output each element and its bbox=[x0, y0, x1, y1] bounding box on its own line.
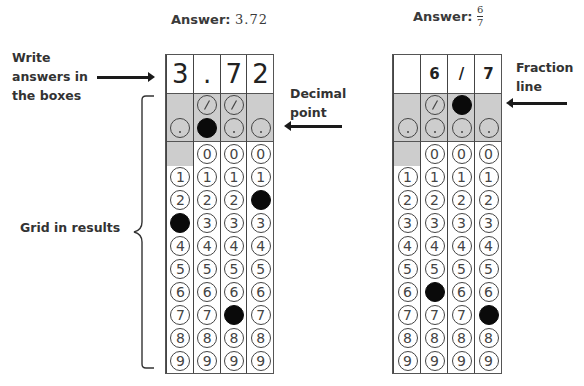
digit-bubble-4[interactable]: 4 bbox=[224, 236, 244, 256]
digit-bubble-1[interactable]: 1 bbox=[170, 167, 190, 187]
digit-bubble-7[interactable]: 7 bbox=[452, 305, 472, 325]
digit-bubble-3[interactable]: 3 bbox=[224, 213, 244, 233]
digit-bubble-0[interactable]: 0 bbox=[224, 144, 244, 164]
digit-bubble-7[interactable]: 7 bbox=[197, 305, 217, 325]
digit-bubble-4[interactable]: 4 bbox=[251, 236, 271, 256]
digit-bubble-3[interactable]: 3 bbox=[452, 213, 472, 233]
grid-column-3: 70123456789 bbox=[474, 55, 502, 373]
digit-bubble-1[interactable]: 1 bbox=[224, 167, 244, 187]
digit-bubble-6[interactable]: 6 bbox=[197, 282, 217, 302]
write-box[interactable]: 7 bbox=[221, 55, 248, 93]
digit-bubble-7[interactable]: 7 bbox=[479, 305, 499, 325]
digit-bubble-0[interactable]: 0 bbox=[479, 144, 499, 164]
digit-bubble-8[interactable]: 8 bbox=[479, 328, 499, 348]
digit-bubble-2[interactable]: 2 bbox=[452, 190, 472, 210]
fraction-slash-bubble[interactable] bbox=[224, 95, 244, 115]
digit-bubble-9[interactable]: 9 bbox=[251, 351, 271, 371]
digit-bubble-3[interactable]: 3 bbox=[170, 213, 190, 233]
digit-bubble-7[interactable]: 7 bbox=[224, 305, 244, 325]
digit-bubble-2[interactable]: 2 bbox=[425, 190, 445, 210]
digit-bubble-5[interactable]: 5 bbox=[251, 259, 271, 279]
digit-bubble-8[interactable]: 8 bbox=[425, 328, 445, 348]
digit-bubble-0[interactable]: 0 bbox=[197, 144, 217, 164]
digit-bubble-0[interactable]: 0 bbox=[425, 144, 445, 164]
decimal-point-bubble[interactable] bbox=[251, 118, 271, 138]
digit-bubble-5[interactable]: 5 bbox=[170, 259, 190, 279]
digit-bubble-6[interactable]: 6 bbox=[170, 282, 190, 302]
decimal-point-bubble[interactable] bbox=[479, 118, 499, 138]
digit-bubble-5[interactable]: 5 bbox=[398, 259, 418, 279]
digit-bubble-3[interactable]: 3 bbox=[251, 213, 271, 233]
digit-bubble-2[interactable]: 2 bbox=[170, 190, 190, 210]
write-box[interactable] bbox=[394, 55, 421, 93]
decimal-point-bubble[interactable] bbox=[398, 118, 418, 138]
digit-bubble-2[interactable]: 2 bbox=[197, 190, 217, 210]
digit-bubble-1[interactable]: 1 bbox=[398, 167, 418, 187]
digit-bubble-4[interactable]: 4 bbox=[452, 236, 472, 256]
digit-bubble-9[interactable]: 9 bbox=[398, 351, 418, 371]
digit-bubble-8[interactable]: 8 bbox=[452, 328, 472, 348]
write-box[interactable]: 3 bbox=[167, 55, 194, 93]
digit-bubble-9[interactable]: 9 bbox=[197, 351, 217, 371]
digit-bubble-6[interactable]: 6 bbox=[425, 282, 445, 302]
digit-bubble-3[interactable]: 3 bbox=[197, 213, 217, 233]
digit-bubble-4[interactable]: 4 bbox=[170, 236, 190, 256]
digit-bubble-2[interactable]: 2 bbox=[398, 190, 418, 210]
write-box[interactable]: 7 bbox=[475, 55, 502, 93]
digit-bubble-0[interactable]: 0 bbox=[251, 144, 271, 164]
fraction-slash-bubble[interactable] bbox=[452, 95, 472, 115]
digit-bubble-2[interactable]: 2 bbox=[251, 190, 271, 210]
digit-bubble-8[interactable]: 8 bbox=[170, 328, 190, 348]
digit-bubble-5[interactable]: 5 bbox=[197, 259, 217, 279]
digit-bubble-5[interactable]: 5 bbox=[452, 259, 472, 279]
write-box[interactable]: . bbox=[194, 55, 221, 93]
digit-bubble-8[interactable]: 8 bbox=[398, 328, 418, 348]
decimal-point-bubble[interactable] bbox=[197, 118, 217, 138]
digit-bubble-1[interactable]: 1 bbox=[251, 167, 271, 187]
digit-bubble-8[interactable]: 8 bbox=[197, 328, 217, 348]
decimal-point-bubble[interactable] bbox=[224, 118, 244, 138]
digit-bubble-3[interactable]: 3 bbox=[479, 213, 499, 233]
digit-bubble-9[interactable]: 9 bbox=[479, 351, 499, 371]
write-answers-label: Write answers in the boxes bbox=[12, 48, 88, 105]
digit-bubble-6[interactable]: 6 bbox=[479, 282, 499, 302]
write-box[interactable]: / bbox=[448, 55, 475, 93]
digit-bubble-6[interactable]: 6 bbox=[398, 282, 418, 302]
digit-bubble-7[interactable]: 7 bbox=[425, 305, 445, 325]
fraction-slash-bubble[interactable] bbox=[197, 95, 217, 115]
digit-bubble-1[interactable]: 1 bbox=[479, 167, 499, 187]
digit-bubble-6[interactable]: 6 bbox=[452, 282, 472, 302]
digit-bubble-7[interactable]: 7 bbox=[170, 305, 190, 325]
digit-bubble-9[interactable]: 9 bbox=[425, 351, 445, 371]
digit-bubble-5[interactable]: 5 bbox=[479, 259, 499, 279]
digit-bubble-1[interactable]: 1 bbox=[425, 167, 445, 187]
digit-bubble-6[interactable]: 6 bbox=[224, 282, 244, 302]
digit-bubble-8[interactable]: 8 bbox=[251, 328, 271, 348]
digit-bubble-9[interactable]: 9 bbox=[170, 351, 190, 371]
fraction-slash-bubble[interactable] bbox=[425, 95, 445, 115]
decimal-point-bubble[interactable] bbox=[170, 118, 190, 138]
decimal-point-bubble[interactable] bbox=[452, 118, 472, 138]
digit-bubble-2[interactable]: 2 bbox=[224, 190, 244, 210]
digit-bubble-6[interactable]: 6 bbox=[251, 282, 271, 302]
digit-bubble-9[interactable]: 9 bbox=[224, 351, 244, 371]
digit-bubble-5[interactable]: 5 bbox=[425, 259, 445, 279]
digit-bubble-1[interactable]: 1 bbox=[197, 167, 217, 187]
digit-bubble-1[interactable]: 1 bbox=[452, 167, 472, 187]
digit-bubble-8[interactable]: 8 bbox=[224, 328, 244, 348]
digit-bubble-4[interactable]: 4 bbox=[197, 236, 217, 256]
digit-bubble-0[interactable]: 0 bbox=[452, 144, 472, 164]
write-box[interactable]: 6 bbox=[421, 55, 448, 93]
digit-bubble-3[interactable]: 3 bbox=[398, 213, 418, 233]
digit-bubble-4[interactable]: 4 bbox=[479, 236, 499, 256]
digit-bubble-4[interactable]: 4 bbox=[425, 236, 445, 256]
decimal-point-bubble[interactable] bbox=[425, 118, 445, 138]
digit-bubble-3[interactable]: 3 bbox=[425, 213, 445, 233]
digit-bubble-2[interactable]: 2 bbox=[479, 190, 499, 210]
digit-bubble-9[interactable]: 9 bbox=[452, 351, 472, 371]
write-box[interactable]: 2 bbox=[247, 55, 274, 93]
digit-bubble-5[interactable]: 5 bbox=[224, 259, 244, 279]
digit-bubble-7[interactable]: 7 bbox=[398, 305, 418, 325]
digit-bubble-4[interactable]: 4 bbox=[398, 236, 418, 256]
digit-bubble-7[interactable]: 7 bbox=[251, 305, 271, 325]
